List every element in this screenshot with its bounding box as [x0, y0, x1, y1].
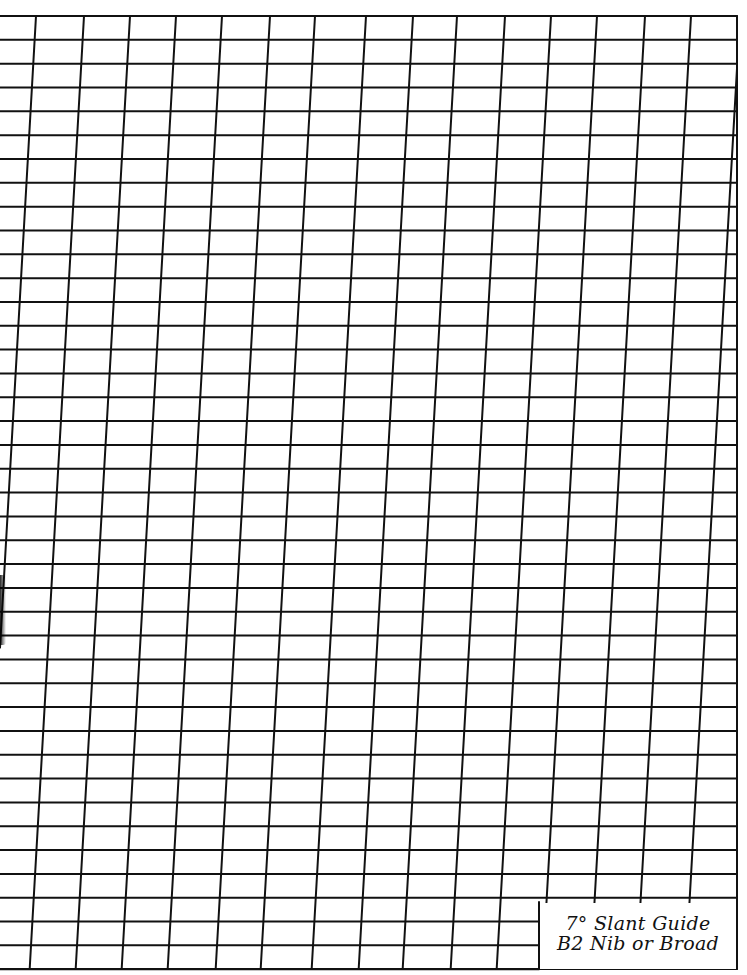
slant-grid — [0, 0, 747, 975]
slant-line — [594, 16, 645, 915]
slant-line — [546, 16, 597, 915]
scan-edge-shadow — [0, 575, 6, 645]
guide-subtitle: B2 Nib or Broad — [540, 933, 736, 953]
slant-line — [640, 16, 691, 915]
slant-guide-sheet: 7° Slant Guide B2 Nib or Broad — [0, 0, 747, 975]
guide-title: 7° Slant Guide — [540, 913, 736, 933]
guide-label-box: 7° Slant Guide B2 Nib or Broad — [540, 903, 736, 969]
